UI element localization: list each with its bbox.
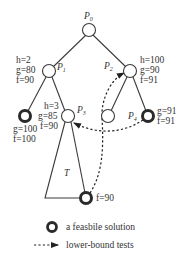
label-p2: P2	[103, 61, 113, 72]
legend-feasible-label: a feasbile solution	[66, 222, 135, 232]
node-feasible-left	[20, 111, 31, 122]
p3-f: f=90	[40, 121, 58, 131]
p3-h: h=3	[44, 101, 59, 111]
label-p0: P0	[83, 11, 93, 22]
label-p4: P4	[127, 111, 137, 122]
arrow-bottom-to-p2	[90, 73, 124, 193]
node-p2	[124, 65, 137, 78]
subtree-label: T	[64, 168, 70, 178]
node-p2-left-child	[102, 110, 115, 123]
p1-h: h=2	[16, 55, 31, 65]
p4-g: g=91	[157, 106, 177, 116]
node-feasible-bottom	[81, 193, 92, 204]
p3-g: g=85	[38, 111, 58, 121]
legend-lower-bound-label: lower-bound tests	[66, 240, 134, 250]
lower-bound-arrows	[74, 73, 143, 193]
leaf-left-g: g=100	[13, 124, 38, 134]
node-p3	[62, 110, 75, 123]
p1-g: g=80	[16, 65, 36, 75]
p2-h: h=100	[140, 55, 165, 65]
node-p0	[83, 24, 96, 37]
p1-f: f=90	[16, 75, 34, 85]
node-p1	[43, 65, 56, 78]
legend: a feasbile solution lower-bound tests	[34, 222, 135, 250]
label-p1: P1	[56, 62, 66, 73]
p4-f: f=91	[157, 116, 175, 126]
feasible-solution-icon	[48, 223, 57, 232]
p2-f: f=91	[140, 75, 158, 85]
search-tree-diagram: P0 P1 h=2 g=80 f=90 P2 h=100 g=90 f=91 P…	[0, 0, 185, 262]
label-p3: P3	[76, 105, 86, 116]
p2-g: g=90	[140, 65, 160, 75]
node-p4-feasible	[143, 111, 154, 122]
leaf-left-f: f=100	[13, 134, 36, 144]
leaf-bottom-f: f=90	[96, 193, 114, 203]
